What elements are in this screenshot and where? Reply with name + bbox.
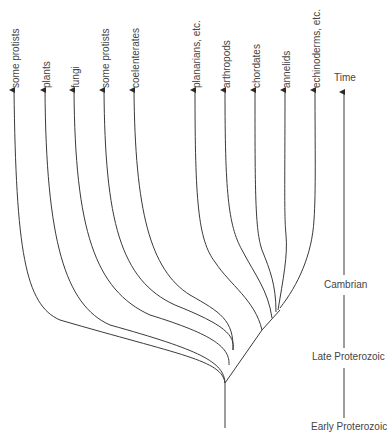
branch-arthropods <box>225 90 272 318</box>
taxon-label-plants: plants <box>41 61 52 88</box>
taxon-label-some-protists-1: some protists <box>10 29 21 88</box>
taxon-label-fungi: fungi <box>70 66 81 88</box>
taxon-label-planarians: planarians, etc. <box>191 20 202 88</box>
branch-some-protists-2 <box>104 90 233 350</box>
era-label-late-proterozoic: Late Proterozoic <box>312 351 385 362</box>
taxon-label-chordates: chordates <box>251 44 262 88</box>
branch-fungi <box>74 90 229 365</box>
branch-coelenterates <box>134 90 233 350</box>
taxon-label-echinoderms: echinoderms, etc. <box>311 9 322 88</box>
taxon-label-some-protists-2: some protists <box>100 29 111 88</box>
taxon-label-arthropods: arthropods <box>221 40 232 88</box>
branch-annelids <box>278 90 286 310</box>
taxon-label-coelenterates: coelenterates <box>130 28 141 88</box>
branch-planarians <box>195 90 262 330</box>
era-label-cambrian: Cambrian <box>324 279 367 290</box>
taxon-label-annelids: annelids <box>281 51 292 88</box>
era-label-early-proterozoic: Early Proterozoic <box>311 421 387 432</box>
time-axis-label: Time <box>334 72 356 83</box>
